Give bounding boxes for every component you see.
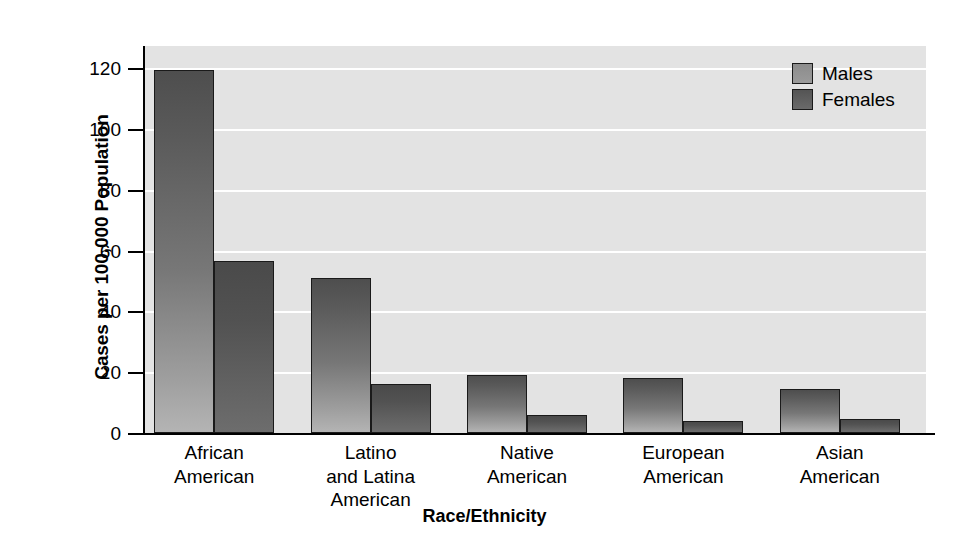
category-label-line: Latino — [286, 441, 456, 465]
x-axis-title: Race/Ethnicity — [0, 506, 969, 527]
y-axis-tick — [128, 68, 144, 70]
x-axis-line — [135, 433, 935, 435]
category-label-line: American — [129, 465, 299, 489]
x-axis-category-label: AsianAmerican — [755, 441, 925, 488]
gridline — [144, 251, 926, 253]
legend: MalesFemales — [792, 60, 895, 112]
category-label-line: Asian — [755, 441, 925, 465]
gridline — [144, 129, 926, 131]
y-axis-line — [143, 46, 145, 435]
legend-swatch-females — [792, 89, 813, 110]
bar-males — [154, 70, 214, 433]
category-label-line: Native — [442, 441, 612, 465]
y-axis-tick — [128, 251, 144, 253]
bar-females — [371, 384, 431, 433]
bar-males — [311, 278, 371, 433]
bar-males — [623, 378, 683, 433]
y-axis-tick-label: 60 — [61, 242, 121, 261]
x-axis-category-label: AfricanAmerican — [129, 441, 299, 488]
bar-chart: Cases per 100,000 Population 02040608010… — [0, 0, 969, 559]
y-axis-tick-label: 40 — [61, 302, 121, 321]
y-axis-tick — [128, 372, 144, 374]
bar-males — [467, 375, 527, 433]
bar-males — [780, 389, 840, 433]
y-axis-tick-label: 100 — [61, 120, 121, 139]
legend-item-females: Females — [792, 86, 895, 112]
category-label-line: American — [442, 465, 612, 489]
category-label-line: and Latina — [286, 465, 456, 489]
y-axis-tick-label: 120 — [61, 59, 121, 78]
category-label-line: African — [129, 441, 299, 465]
bar-females — [840, 419, 900, 433]
x-axis-category-label: EuropeanAmerican — [598, 441, 768, 488]
y-axis-tick — [128, 311, 144, 313]
y-axis-tick-label: 0 — [61, 424, 121, 443]
category-label-line: European — [598, 441, 768, 465]
bar-females — [527, 415, 587, 433]
category-label-line: American — [755, 465, 925, 489]
legend-swatch-males — [792, 63, 813, 84]
y-axis-tick-label: 20 — [61, 363, 121, 382]
category-label-line: American — [598, 465, 768, 489]
legend-item-males: Males — [792, 60, 895, 86]
legend-label: Females — [822, 90, 895, 109]
x-axis-category-label: Latinoand LatinaAmerican — [286, 441, 456, 512]
x-axis-category-label: NativeAmerican — [442, 441, 612, 488]
bar-females — [683, 421, 743, 433]
gridline — [144, 190, 926, 192]
y-axis-tick-label: 80 — [61, 181, 121, 200]
y-axis-tick — [128, 129, 144, 131]
legend-label: Males — [822, 64, 873, 83]
y-axis-tick — [128, 190, 144, 192]
bar-females — [214, 261, 274, 433]
